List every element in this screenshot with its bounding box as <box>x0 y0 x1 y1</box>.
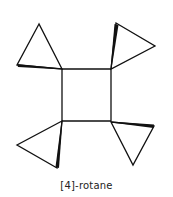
cyclopropane-top-right <box>111 23 156 69</box>
cyclopropane-top-left <box>17 24 62 70</box>
wedge-bond <box>111 122 154 129</box>
wedge-bond <box>111 24 119 69</box>
cyclobutane-ring <box>62 69 111 121</box>
wedge-bond <box>17 64 62 70</box>
cyclopropane-bottom-left <box>17 121 63 168</box>
wedge-bond <box>56 121 63 168</box>
cyclopropane-bottom-right <box>111 122 154 166</box>
diagram-caption: [4]-rotane <box>0 180 173 191</box>
rotane-structure <box>0 0 173 197</box>
